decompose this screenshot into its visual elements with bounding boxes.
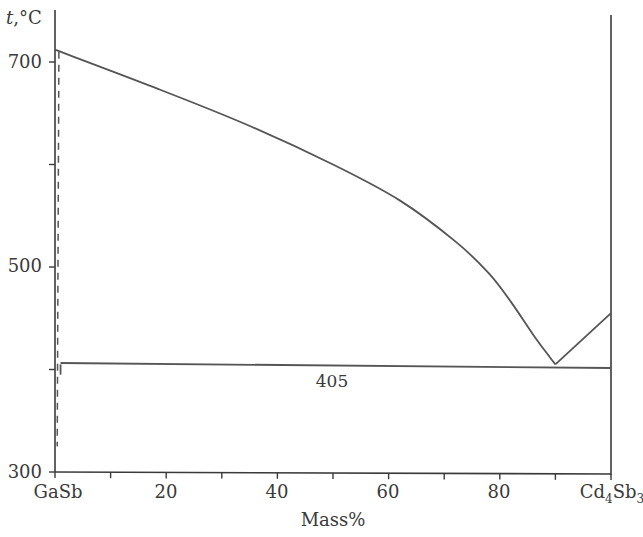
x-axis-title: Mass%: [301, 509, 366, 530]
sb-subscript: 3: [637, 492, 643, 506]
x-tick-label-60: 60: [377, 481, 400, 502]
series-liquidus-cd4sb3-side: [555, 313, 611, 364]
series-eutectic-horizontal: [61, 363, 611, 368]
x-tick-label-gasb: GaSb: [34, 481, 83, 502]
eutectic-temperature-label: 405: [316, 371, 348, 391]
series-solid-solution-boundary-gasb: [57, 52, 59, 447]
y-axis-title-unit: ,°C: [13, 7, 42, 28]
axes: [55, 10, 611, 475]
x-tick-label-40: 40: [266, 481, 289, 502]
y-tick-label-500: 500: [8, 255, 42, 276]
sb-symbol: Sb: [613, 481, 637, 502]
y-tick-label-300: 300: [8, 461, 42, 482]
cd-symbol: Cd: [580, 481, 605, 502]
y-axis-ticks: [49, 62, 55, 472]
x-tick-label-80: 80: [488, 481, 511, 502]
y-tick-label-700: 700: [8, 51, 42, 72]
x-tick-label-20: 20: [155, 481, 178, 502]
y-axis-title: t,°C: [6, 7, 42, 28]
x-tick-label-cd4sb3: Cd4Sb3: [580, 481, 643, 506]
phase-diagram-chart: 700 500 300 t,°C GaSb 20 40 60 80 Cd4Sb3…: [0, 0, 643, 537]
series-liquidus-gasb-side: [55, 50, 555, 365]
